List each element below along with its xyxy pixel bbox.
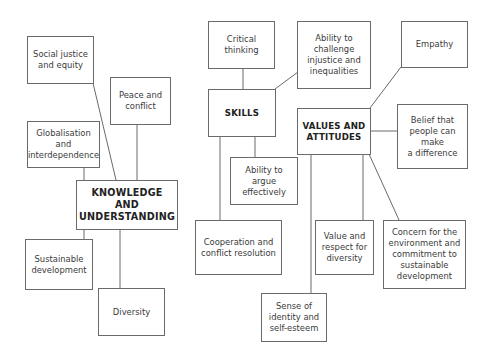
node-belief-difference: Belief that people can make a difference <box>397 104 468 169</box>
node-diversity: Diversity <box>98 288 165 336</box>
node-sense-of-identity: Sense of identity and self-esteem <box>261 293 327 342</box>
node-sustainable-development: Sustainable development <box>25 239 93 290</box>
hub-knowledge-understanding: KNOWLEDGE AND UNDERSTANDING <box>76 180 178 230</box>
node-label: Social justice and equity <box>33 49 88 71</box>
node-label: Diversity <box>113 307 150 318</box>
node-label: Ability to challenge injustice and inequ… <box>307 33 360 77</box>
hub-skills: SKILLS <box>208 89 276 137</box>
node-label: Ability to argue effectively <box>233 165 295 198</box>
node-label: Empathy <box>416 39 453 50</box>
hub-label: SKILLS <box>225 108 259 119</box>
node-social-justice: Social justice and equity <box>27 36 94 84</box>
node-label: Peace and conflict <box>119 90 162 112</box>
node-label: Value and respect for diversity <box>322 231 367 264</box>
node-label: Sense of identity and self-esteem <box>269 301 319 334</box>
node-label: Cooperation and conflict resolution <box>201 237 276 259</box>
connector-concern <box>369 154 399 220</box>
node-challenge-injustice: Ability to challenge injustice and inequ… <box>297 21 371 89</box>
hub-values-attitudes: VALUES AND ATTITUDES <box>297 108 371 155</box>
node-peace-conflict: Peace and conflict <box>110 77 171 125</box>
connector-empathy <box>370 67 401 108</box>
node-argue-effectively: Ability to argue effectively <box>230 157 298 205</box>
hub-label: KNOWLEDGE AND UNDERSTANDING <box>79 187 175 223</box>
node-label: Concern for the environment and commitme… <box>389 227 461 282</box>
hub-label: VALUES AND ATTITUDES <box>303 121 366 143</box>
connector-challenge <box>275 72 298 89</box>
node-globalisation: Globalisation and interdependence <box>27 121 100 168</box>
node-cooperation: Cooperation and conflict resolution <box>195 220 282 275</box>
node-label: Critical thinking <box>224 34 258 56</box>
node-empathy: Empathy <box>401 21 468 68</box>
node-label: Sustainable development <box>31 254 86 276</box>
node-label: Globalisation and interdependence <box>28 128 99 161</box>
node-concern-environment: Concern for the environment and commitme… <box>383 220 466 289</box>
node-critical-thinking: Critical thinking <box>208 21 275 69</box>
node-label: Belief that people can make a difference <box>400 115 465 159</box>
node-value-respect-diversity: Value and respect for diversity <box>315 220 374 275</box>
